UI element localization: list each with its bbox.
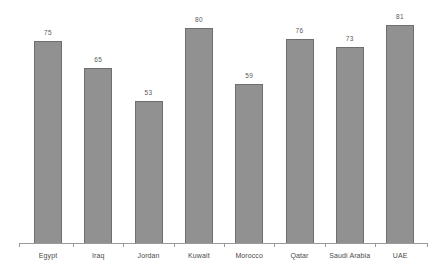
bar-qatar	[286, 39, 314, 244]
plot-area: 7565538059767381 EgyptIraqJordanKuwaitMo…	[0, 0, 447, 273]
bar-iraq	[84, 68, 112, 244]
axis-tick	[274, 244, 275, 247]
bar-uae	[386, 25, 414, 244]
bar-chart: 7565538059767381 EgyptIraqJordanKuwaitMo…	[0, 0, 447, 273]
axis-tick-start	[19, 244, 20, 247]
bar-egypt	[34, 41, 62, 244]
axis-tick	[73, 244, 74, 247]
axis-tick-end	[427, 244, 428, 247]
bar-value-label: 73	[330, 35, 370, 42]
axis-tick	[224, 244, 225, 247]
category-label-uae: UAE	[365, 252, 435, 259]
bar-value-label: 81	[380, 13, 420, 20]
bar-value-label: 75	[28, 29, 68, 36]
axis-tick	[325, 244, 326, 247]
bar-morocco	[235, 84, 263, 244]
bar-value-label: 80	[179, 16, 219, 23]
bar-value-label: 59	[229, 72, 269, 79]
bar-value-label: 53	[129, 89, 169, 96]
bar-kuwait	[185, 28, 213, 244]
bar-jordan	[135, 101, 163, 244]
bar-saudi-arabia	[336, 47, 364, 244]
bar-value-label: 65	[78, 56, 118, 63]
axis-tick	[123, 244, 124, 247]
axis-tick	[174, 244, 175, 247]
bar-value-label: 76	[280, 27, 320, 34]
axis-tick	[375, 244, 376, 247]
